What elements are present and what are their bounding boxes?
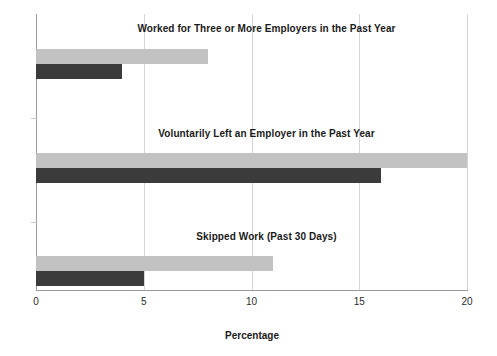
x-tick-label-10: 10: [246, 296, 257, 307]
x-tick-label-5: 5: [141, 296, 147, 307]
bar-no[interactable]: [36, 64, 122, 79]
y-axis-tick-panel-separator-2: [31, 222, 37, 223]
bar-chart-figure: Worked for Three or More Employers in th…: [0, 0, 497, 356]
bar-yes[interactable]: [36, 256, 273, 271]
x-tick-label-15: 15: [354, 296, 365, 307]
bar-row: [36, 271, 467, 286]
panel-title: Voluntarily Left an Employer in the Past…: [36, 128, 497, 139]
bar-row: [36, 64, 467, 79]
y-axis-tick-panel-separator-1: [31, 118, 37, 119]
bar-yes[interactable]: [36, 153, 467, 168]
bar-row: [36, 256, 467, 271]
bar-row: [36, 153, 467, 168]
panel-title: Skipped Work (Past 30 Days): [36, 231, 497, 242]
bar-no[interactable]: [36, 271, 144, 286]
x-axis-spine: [36, 290, 468, 291]
gridline-20: [467, 14, 468, 290]
x-tick-label-0: 0: [33, 296, 39, 307]
bar-row: [36, 49, 467, 64]
x-tick-label-20: 20: [461, 296, 472, 307]
bar-yes[interactable]: [36, 49, 208, 64]
bar-no[interactable]: [36, 168, 381, 183]
bar-row: [36, 168, 467, 183]
x-axis-title: Percentage: [36, 330, 468, 341]
panel-title: Worked for Three or More Employers in th…: [36, 23, 497, 34]
